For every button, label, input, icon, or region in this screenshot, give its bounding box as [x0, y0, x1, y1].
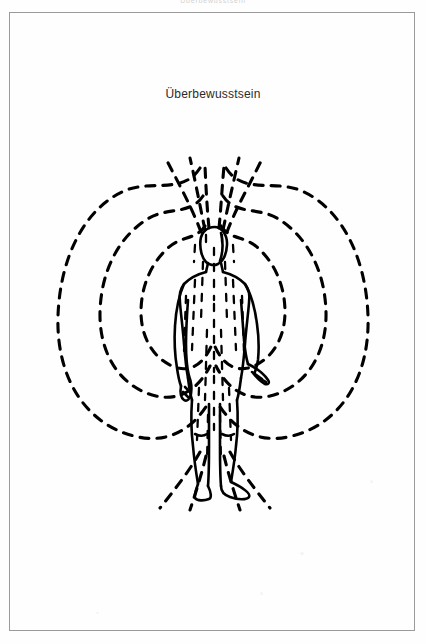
crown-ray-far-right: [227, 157, 263, 232]
scanned-page: Überbewusstsein Überbewusstsein: [0, 0, 426, 644]
figure-hip-right: [237, 378, 241, 400]
figure-neck-left: [206, 263, 208, 272]
illustration-artwork: [0, 0, 426, 644]
figure-leg-left-inner: [208, 404, 209, 486]
figure-leg-right-outer: [231, 400, 238, 482]
aura-field-group: [58, 157, 368, 510]
figure-leg-right-inner: [220, 404, 221, 486]
crown-ray-left: [190, 158, 205, 230]
figure-neck-right: [221, 263, 223, 272]
crown-ray-far-left: [165, 157, 201, 232]
aura-figure-svg: [0, 0, 426, 644]
figure-knee-left: [195, 434, 207, 436]
crown-ray-center-left: [205, 166, 209, 228]
figure-arm-left-inner: [186, 300, 189, 376]
figure-face-line: [220, 233, 222, 261]
body-energy-lines: [184, 235, 244, 462]
figure-knee-right: [222, 434, 234, 436]
figure-leg-left-outer: [191, 400, 198, 484]
